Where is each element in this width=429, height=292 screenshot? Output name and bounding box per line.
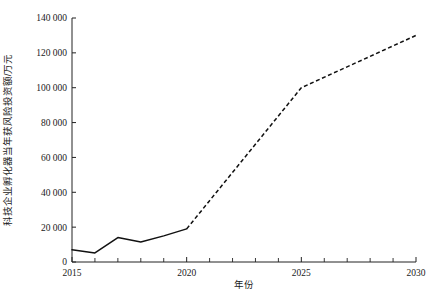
y-axis-title: 科技企业孵化器当年获风险投资额/万元 [2,54,13,227]
y-tick-label: 20 000 [41,223,67,233]
x-tick-label: 2030 [407,268,426,278]
x-tick-label: 2015 [63,268,82,278]
y-tick-label: 0 [62,257,67,267]
x-tick-label: 2020 [177,268,196,278]
x-tick-label: 2025 [292,268,311,278]
x-axis-title: 年份 [234,279,254,290]
y-tick-label: 140 000 [36,13,67,23]
line-chart: 020 00040 00060 00080 000100 000120 0001… [0,0,429,292]
chart-background [0,0,429,292]
chart-canvas: 020 00040 00060 00080 000100 000120 0001… [0,0,429,292]
y-tick-label: 40 000 [41,188,67,198]
y-tick-label: 120 000 [36,48,67,58]
y-tick-label: 60 000 [41,153,67,163]
y-tick-label: 100 000 [36,83,67,93]
y-tick-label: 80 000 [41,118,67,128]
